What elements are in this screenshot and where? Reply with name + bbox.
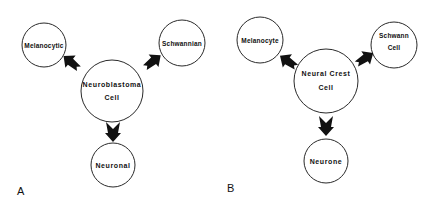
- arrow-to-neuronal-icon: [105, 122, 121, 142]
- node-neuronal: Neuronal: [91, 143, 135, 187]
- node-melanocytic: Melanocytic: [22, 23, 66, 67]
- melanocyte-label: Melanocyte: [241, 37, 279, 45]
- node-schwannian: Schwannian: [159, 20, 205, 66]
- neuroblastoma-label-line2: Cell: [104, 94, 119, 101]
- neuroblastoma-label-line1: Neuroblastoma: [83, 81, 142, 88]
- schwann-cell-label-line2: Cell: [388, 44, 401, 51]
- panel-a: Melanocytic Schwannian Neuroblastoma Cel…: [17, 20, 205, 197]
- neuronal-label: Neuronal: [95, 162, 130, 169]
- neurone-label: Neurone: [310, 158, 343, 165]
- schwannian-label: Schwannian: [162, 40, 202, 47]
- melanocytic-label: Melanocytic: [24, 42, 64, 50]
- panel-label-a: A: [17, 185, 25, 197]
- neuroblastoma-cell-circle: [81, 60, 143, 122]
- neural-crest-cell-circle: [294, 49, 358, 113]
- panel-b: Melanocyte Schwann Cell Neural Crest Cel…: [227, 17, 417, 194]
- node-melanocyte: Melanocyte: [237, 17, 283, 63]
- schwann-cell-label-line1: Schwann: [379, 32, 409, 39]
- node-schwann-cell: Schwann Cell: [371, 22, 417, 68]
- node-neural-crest-cell: Neural Crest Cell: [294, 49, 358, 113]
- neural-crest-label-line2: Cell: [318, 84, 333, 91]
- arrow-to-neurone-icon: [318, 116, 334, 136]
- node-neuroblastoma-cell: Neuroblastoma Cell: [81, 60, 143, 122]
- node-neurone: Neurone: [304, 139, 348, 183]
- neural-crest-label-line1: Neural Crest: [302, 70, 351, 77]
- figure-canvas: Melanocytic Schwannian Neuroblastoma Cel…: [0, 0, 432, 207]
- panel-label-b: B: [227, 182, 234, 194]
